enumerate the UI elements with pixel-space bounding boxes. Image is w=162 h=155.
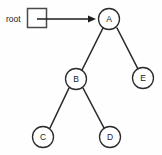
node-a: A xyxy=(99,9,120,30)
node-c-label: C xyxy=(40,132,46,142)
node-e-label: E xyxy=(140,73,146,83)
edges-group xyxy=(50,28,138,128)
node-c: C xyxy=(33,127,54,148)
node-b: B xyxy=(66,69,87,90)
node-b-label: B xyxy=(73,74,79,84)
edge-a-e xyxy=(117,28,138,69)
edge-b-c xyxy=(50,88,69,128)
edge-a-b xyxy=(82,28,103,70)
node-d-label: D xyxy=(107,132,113,142)
node-a-label: A xyxy=(106,14,112,24)
node-e: E xyxy=(133,68,154,89)
edge-b-d xyxy=(83,88,104,128)
binary-tree-diagram: root A B E C D xyxy=(0,0,162,155)
root-pointer-group: root xyxy=(6,9,96,28)
root-pointer-box xyxy=(28,9,47,28)
diagram-canvas: root A B E C D xyxy=(0,0,162,155)
root-arrow-head xyxy=(88,16,96,23)
root-label: root xyxy=(6,14,21,24)
node-d: D xyxy=(100,127,121,148)
